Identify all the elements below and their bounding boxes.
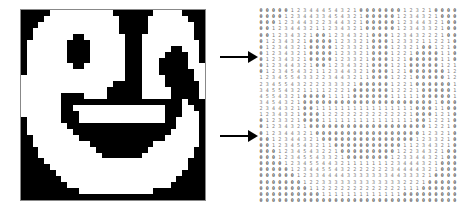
matrix-cell: 0 xyxy=(452,197,458,203)
arrow-bottom-icon xyxy=(220,135,256,137)
distance-matrix: 0000012344454321000000012321000000001234… xyxy=(258,7,458,203)
arrow-top-icon xyxy=(220,56,256,58)
binary-image xyxy=(20,9,206,201)
pixel xyxy=(199,194,205,200)
